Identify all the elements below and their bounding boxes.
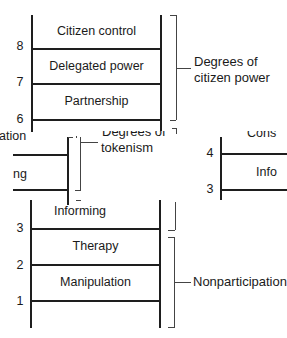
- overlay-right-rung-3: [221, 189, 287, 191]
- overlay-number-3: 3: [204, 182, 216, 196]
- rung-3: [30, 228, 161, 230]
- overlay-text-ng: ng: [13, 166, 27, 182]
- overlay-text-ation: ation: [0, 128, 26, 144]
- rung-6: [31, 119, 162, 121]
- overlay-right-rung-4: [221, 153, 287, 155]
- rung-number-7: 7: [14, 75, 26, 89]
- rung-1: [30, 300, 161, 302]
- rung-2: [30, 264, 161, 266]
- group-label-citizen-power: Degrees of citizen power: [194, 54, 270, 86]
- rung-8: [31, 48, 162, 50]
- rung-label-delegated-power: Delegated power: [33, 59, 160, 73]
- rung-label-informing: Informing: [30, 204, 130, 218]
- overlay-rung-upper: [13, 154, 69, 156]
- rung-number-2: 2: [14, 258, 26, 272]
- rung-number-8: 8: [14, 39, 26, 53]
- rung-number-1: 1: [14, 294, 26, 308]
- overlay-number-4: 4: [204, 146, 216, 160]
- group-label-nonparticipation: Nonparticipation: [193, 274, 287, 290]
- group-label-tokenism-line1-clip: Degrees of: [100, 131, 166, 139]
- right-rail-top: [160, 15, 162, 132]
- rung-label-partnership: Partnership: [33, 94, 160, 108]
- rung-label-manipulation: Manipulation: [32, 275, 159, 289]
- rung-number-6: 6: [14, 112, 26, 126]
- overlay-text-info: Info: [256, 164, 277, 180]
- group-label-tokenism: tokenism: [101, 140, 153, 156]
- overlay-rung-lower: [13, 189, 69, 191]
- rung-7: [31, 83, 162, 85]
- overlay-rail: [67, 137, 69, 205]
- rung-label-citizen-control: Citizen control: [33, 24, 160, 38]
- overlay-text-cons: Cons: [247, 131, 276, 139]
- rung-label-therapy: Therapy: [32, 239, 159, 253]
- rung-number-3: 3: [14, 221, 26, 235]
